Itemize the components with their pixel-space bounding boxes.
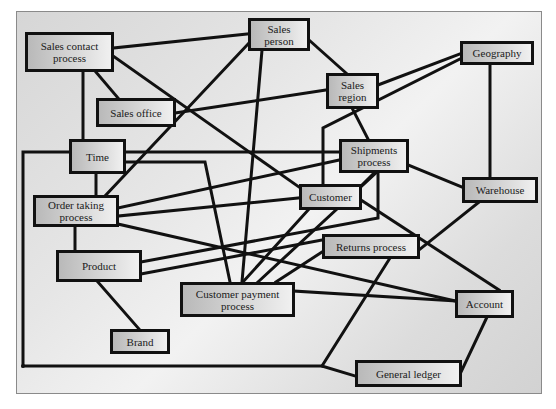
edge-sales-contact-sales-person	[113, 34, 248, 48]
edge-sales-person-payment	[242, 50, 262, 282]
node-brand[interactable]: Brand	[110, 329, 170, 354]
node-label: Product	[82, 260, 116, 272]
node-label: Returns process	[336, 241, 406, 253]
node-label: Warehouse	[476, 184, 525, 196]
node-label: Sales person	[264, 23, 293, 47]
edge-shipments-warehouse	[408, 165, 462, 187]
edge-customer-shipments	[361, 172, 375, 186]
node-label: Customer	[309, 191, 352, 203]
edge-account-general-ledger	[461, 317, 487, 372]
node-sales-region[interactable]: Sales region	[326, 73, 379, 109]
node-label: Shipments process	[351, 144, 397, 168]
node-geography[interactable]: Geography	[460, 41, 534, 65]
node-label: Brand	[127, 336, 154, 348]
node-sales-office[interactable]: Sales office	[96, 98, 176, 127]
node-time[interactable]: Time	[69, 139, 126, 174]
node-shipments-process[interactable]: Shipments process	[339, 139, 409, 173]
edge-returns-payment	[276, 252, 322, 282]
node-label: Sales contact process	[41, 40, 99, 64]
node-label: Account	[466, 298, 503, 310]
edge-sales-contact-sales-office	[95, 71, 118, 98]
node-sales-person[interactable]: Sales person	[248, 18, 310, 51]
node-label: Time	[86, 151, 109, 163]
node-customer[interactable]: Customer	[299, 184, 362, 210]
junction-dot	[21, 364, 25, 368]
node-general-ledger[interactable]: General ledger	[355, 360, 462, 387]
node-product[interactable]: Product	[56, 250, 142, 282]
edge-product-brand	[97, 281, 139, 329]
node-customer-payment-process[interactable]: Customer payment process	[180, 282, 295, 317]
edge-sales-person-sales-region	[309, 40, 346, 73]
edge-sales-office-sales-region	[175, 90, 326, 113]
node-label: Sales region	[338, 79, 366, 103]
node-warehouse[interactable]: Warehouse	[462, 177, 538, 203]
edge-warehouse-returns	[419, 202, 479, 250]
node-label: Geography	[473, 47, 522, 59]
node-label: Sales office	[110, 107, 161, 119]
node-returns-process[interactable]: Returns process	[322, 234, 420, 259]
node-sales-contact-process[interactable]: Sales contact process	[25, 32, 114, 72]
node-label: General ledger	[376, 368, 441, 380]
node-order-taking-process[interactable]: Order taking process	[33, 195, 119, 227]
node-label: Customer payment process	[196, 288, 279, 312]
node-label: Order taking process	[48, 199, 104, 223]
node-account[interactable]: Account	[455, 290, 514, 318]
